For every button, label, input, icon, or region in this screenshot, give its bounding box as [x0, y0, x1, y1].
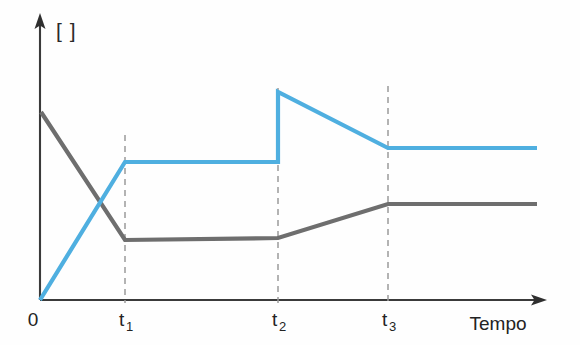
x-tick-label-t1: t 1: [119, 309, 133, 334]
x-tick-label-t2-base: t: [272, 309, 278, 330]
guide-lines-group: [125, 86, 388, 303]
x-tick-label-origin: 0: [28, 309, 39, 330]
x-tick-label-t3-base: t: [382, 309, 388, 330]
x-tick-label-t2: t 2: [272, 309, 286, 334]
x-tick-label-t1-base: t: [119, 309, 125, 330]
chart-canvas: [ ] 0 t 1 t 2 t 3 Tempo: [0, 0, 580, 345]
x-tick-label-t3: t 3: [382, 309, 396, 334]
x-axis-group: [40, 295, 547, 306]
x-axis-title: Tempo: [469, 313, 526, 334]
x-tick-label-t3-subscript: 3: [389, 319, 396, 334]
y-axis-unit-label: [ ]: [56, 19, 77, 42]
chart-container: [ ] 0 t 1 t 2 t 3 Tempo: [0, 0, 580, 345]
x-tick-label-t2-subscript: 2: [279, 319, 286, 334]
x-tick-label-t1-subscript: 1: [126, 319, 133, 334]
y-axis-group: [35, 13, 46, 300]
series-line-blue: [40, 92, 537, 300]
